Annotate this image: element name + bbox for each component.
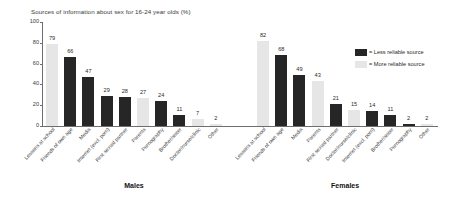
- bar-value-label: 66: [67, 49, 73, 55]
- category-label-cell: Media: [291, 127, 309, 173]
- bar-group: 66: [61, 22, 79, 126]
- bar-value-label: 7: [196, 111, 199, 117]
- bar-value-label: 14: [369, 103, 375, 109]
- y-tick-label: 40: [27, 81, 39, 87]
- category-label-cell: Friends of own age: [272, 127, 290, 173]
- bar-group: 79: [43, 22, 61, 126]
- bar: 49: [293, 75, 305, 126]
- bar-group: 82: [254, 22, 272, 126]
- bar-group: 24: [152, 22, 170, 126]
- bar-group: 28: [116, 22, 134, 126]
- bar-value-label: 43: [315, 73, 321, 79]
- bar: 7: [192, 119, 204, 126]
- y-tick-mark: [40, 126, 43, 127]
- legend-label-more: = More reliable source: [369, 61, 425, 67]
- bar-value-label: 79: [49, 36, 55, 42]
- legend-item-less: = Less reliable source: [355, 47, 425, 57]
- bar-group: 7: [189, 22, 207, 126]
- category-label-cell: Doctor/nurse/clinic: [189, 127, 207, 173]
- bar-group: 43: [309, 22, 327, 126]
- bar-group: 2: [399, 22, 417, 126]
- bar-group: 29: [98, 22, 116, 126]
- bar-group: 2: [207, 22, 225, 126]
- bar: 66: [64, 57, 76, 126]
- bar-group: 15: [345, 22, 363, 126]
- bar: 14: [366, 111, 378, 126]
- bar: 79: [46, 44, 58, 126]
- bar-value-label: 82: [260, 33, 266, 39]
- bar-value-label: 47: [85, 69, 91, 75]
- bar-value-label: 68: [278, 47, 284, 53]
- plot-area: 020406080100 796647292827241172826849432…: [42, 22, 438, 126]
- bar: 82: [257, 41, 269, 126]
- category-label-cell: Other: [418, 127, 436, 173]
- bar-value-label: 29: [104, 88, 110, 94]
- bar-value-label: 2: [407, 116, 410, 122]
- y-tick-label: 0: [27, 123, 39, 129]
- chart-title: Sources of information about sex for 16-…: [31, 8, 191, 15]
- bar-value-label: 15: [351, 102, 357, 108]
- bar-value-label: 24: [158, 93, 164, 99]
- y-tick-label: 100: [27, 19, 39, 25]
- x-tick-label: Other: [207, 127, 220, 140]
- bar-value-label: 11: [387, 107, 393, 113]
- x-axis-category-labels: Lessons at schoolFriends of own ageMedia…: [43, 127, 436, 173]
- bar-group: 2: [418, 22, 436, 126]
- bar: 2: [421, 124, 433, 126]
- legend-swatch-more-reliable-icon: [355, 61, 367, 68]
- bar-series: 796647292827241172826849432115141122: [43, 22, 436, 126]
- bar: 28: [119, 97, 131, 126]
- bar-value-label: 49: [296, 67, 302, 73]
- category-label-cell: Friends of own age: [61, 127, 79, 173]
- bar-group: 49: [290, 22, 308, 126]
- bar-value-label: 21: [333, 96, 339, 102]
- y-tick-mark: [40, 64, 43, 65]
- bar: 47: [82, 77, 94, 126]
- y-tick-mark: [40, 84, 43, 85]
- bar: 43: [312, 81, 324, 126]
- bar-group: 21: [327, 22, 345, 126]
- bar: 11: [384, 115, 396, 126]
- x-tick-label: Media: [290, 127, 303, 141]
- bar-group: 27: [134, 22, 152, 126]
- bar: 24: [155, 101, 167, 126]
- bar-value-label: 28: [122, 89, 128, 95]
- bar-value-label: 27: [140, 90, 146, 96]
- panel-title-males: Males: [43, 182, 225, 189]
- category-label-cell: Other: [207, 127, 225, 173]
- bar-value-label: 2: [214, 116, 217, 122]
- bar-group: 11: [170, 22, 188, 126]
- bar: 21: [330, 104, 342, 126]
- bar: 2: [210, 124, 222, 126]
- x-tick-label: Parents: [131, 127, 147, 144]
- bar: 15: [348, 110, 360, 126]
- bar-value-label: 2: [425, 116, 428, 122]
- category-label-cell: First sexual partner: [116, 127, 134, 173]
- bar: 11: [173, 115, 185, 126]
- panel-title-females: Females: [254, 182, 436, 189]
- y-tick-label: 60: [27, 61, 39, 67]
- bar: 27: [137, 98, 149, 126]
- chart-container: Sources of information about sex for 16-…: [0, 0, 454, 203]
- y-tick-mark: [40, 105, 43, 106]
- bar-group: 68: [272, 22, 290, 126]
- bar-group: 11: [381, 22, 399, 126]
- bar: 68: [275, 55, 287, 126]
- y-tick-mark: [40, 22, 43, 23]
- bar-value-label: 11: [177, 107, 183, 113]
- x-tick-label: Media: [79, 127, 92, 141]
- bar-group: 47: [79, 22, 97, 126]
- legend-item-more: = More reliable source: [355, 59, 425, 69]
- bar-group: 14: [363, 22, 381, 126]
- y-tick-label: 20: [27, 102, 39, 108]
- legend-label-less: = Less reliable source: [369, 49, 424, 55]
- y-tick-mark: [40, 43, 43, 44]
- x-tick-label: Parents: [306, 127, 322, 144]
- chart-legend: = Less reliable source = More reliable s…: [355, 47, 425, 71]
- y-tick-label: 80: [27, 40, 39, 46]
- legend-swatch-less-reliable-icon: [355, 49, 367, 56]
- category-label-cell: Pornography: [400, 127, 418, 173]
- x-tick-label: Other: [418, 127, 431, 140]
- bar: 29: [101, 96, 113, 126]
